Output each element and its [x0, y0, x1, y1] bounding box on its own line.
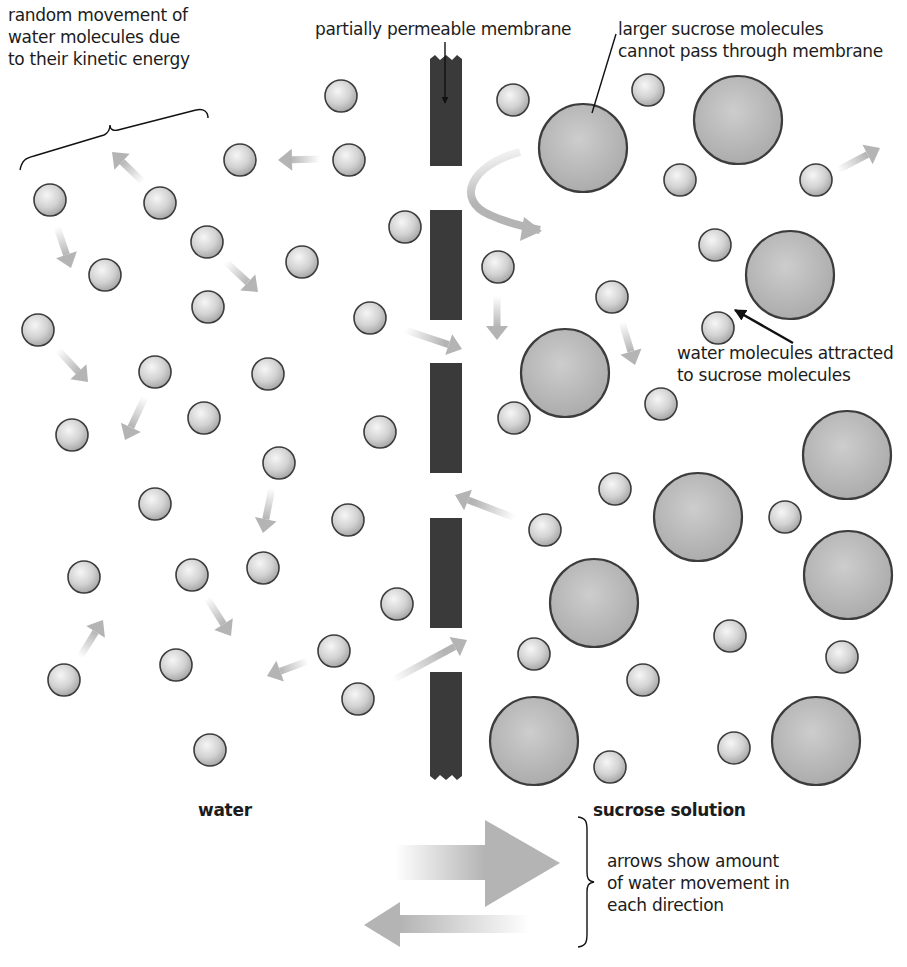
partially-permeable-membrane [430, 55, 462, 780]
water-molecule [627, 664, 659, 696]
membrane-label: partially permeable membrane [315, 18, 571, 40]
water-molecule [22, 314, 54, 346]
water-attracted-label: water molecules attracted to sucrose mol… [677, 342, 893, 386]
legend-arrow-into-solution-shaft [395, 845, 485, 880]
water-molecule [252, 358, 284, 390]
water-molecule [769, 501, 801, 533]
curved-arrow-shaft [471, 152, 540, 230]
water-molecule [664, 164, 696, 196]
sucrose-molecule [746, 231, 834, 319]
water-molecule [632, 74, 664, 106]
water-molecule [263, 447, 295, 479]
water-molecule [191, 226, 223, 258]
water-molecule [826, 641, 858, 673]
water-molecule [56, 419, 88, 451]
arrow-shaft [838, 154, 868, 170]
water-molecule [497, 84, 529, 116]
water-molecule [139, 356, 171, 388]
water-molecule [139, 488, 171, 520]
water-molecule [325, 80, 357, 112]
curved-arrow-head-icon [520, 217, 542, 241]
water-molecule [160, 649, 192, 681]
sucrose-molecule [803, 411, 891, 499]
membrane-segment [430, 363, 462, 473]
sucrose-molecule [550, 559, 638, 647]
water-molecule [68, 561, 100, 593]
sucrose-molecule [694, 76, 782, 164]
water-molecule [354, 302, 386, 334]
membrane-segment [430, 210, 462, 320]
sucrose-cannot-pass-label: larger sucrose molecules cannot pass thr… [618, 18, 883, 62]
osmosis-diagram [0, 0, 907, 967]
sucrose-molecule [654, 473, 742, 561]
water-movement-arrows [56, 145, 880, 682]
water-molecule [596, 281, 628, 313]
water-molecule [702, 312, 734, 344]
water-molecule [594, 751, 626, 783]
water-molecule [599, 473, 631, 505]
arrow-shaft [57, 227, 66, 255]
legend-arrow-into-solution-head-icon [485, 820, 560, 907]
arrow-shaft [280, 661, 308, 671]
water-molecule [529, 514, 561, 546]
water-molecule [381, 588, 413, 620]
water-molecule [800, 164, 832, 196]
arrow-shaft [122, 162, 143, 182]
random-movement-label: random movement of water molecules due t… [8, 4, 190, 70]
water-molecule [176, 559, 208, 591]
water-molecule [194, 734, 226, 766]
membrane-segment [430, 55, 462, 166]
sucrose-molecule [539, 104, 627, 192]
water-molecule [482, 251, 514, 283]
sucrose-molecule [804, 531, 892, 619]
legend-arrows [364, 820, 560, 947]
water-molecule [286, 246, 318, 278]
arrow-head-icon [255, 517, 277, 533]
water-molecule [333, 144, 365, 176]
sucrose-molecule [490, 697, 578, 785]
water-side-label: water [198, 799, 252, 821]
arrow-head-icon [486, 326, 508, 340]
water-molecule [718, 732, 750, 764]
arrow-shaft [266, 488, 272, 519]
water-molecule [192, 291, 224, 323]
legend-brace [578, 817, 594, 947]
water-molecule [34, 184, 66, 216]
water-molecule [188, 402, 220, 434]
arrow-shaft [80, 632, 96, 657]
water-molecule [224, 144, 256, 176]
arrow-shaft [131, 397, 145, 427]
arrow-shaft [622, 322, 631, 352]
sucrose-molecule [772, 697, 860, 785]
water-molecule [498, 402, 530, 434]
water-molecule [714, 620, 746, 652]
arrow-shaft [58, 350, 78, 372]
water-molecule [247, 552, 279, 584]
water-molecule [518, 638, 550, 670]
sucrose-pointer-line [592, 34, 616, 113]
arrow-head-icon [278, 149, 292, 171]
water-molecule [332, 504, 364, 536]
water-molecule [342, 683, 374, 715]
sucrose-solution-label: sucrose solution [593, 799, 746, 821]
water-molecule [389, 211, 421, 243]
curved-movement-arrow [471, 152, 542, 241]
membrane-segment [430, 518, 462, 628]
arrow-shaft [207, 598, 224, 624]
water-molecule [89, 259, 121, 291]
arrow-shaft [468, 500, 515, 518]
arrow-shaft [292, 159, 320, 160]
water-molecule [318, 635, 350, 667]
arrow-shaft [405, 330, 449, 345]
sucrose-molecule [521, 329, 609, 417]
water-molecule [364, 416, 396, 448]
water-molecule [48, 664, 80, 696]
arrow-shaft [226, 262, 248, 282]
legend-arrow-into-water-shaft [400, 915, 530, 933]
water-molecule [144, 187, 176, 219]
water-molecule [699, 229, 731, 261]
water-molecule [645, 388, 677, 420]
arrows-legend-label: arrows show amount of water movement in … [607, 850, 789, 916]
legend-arrow-into-water-head-icon [364, 902, 400, 947]
membrane-segment [430, 672, 462, 780]
